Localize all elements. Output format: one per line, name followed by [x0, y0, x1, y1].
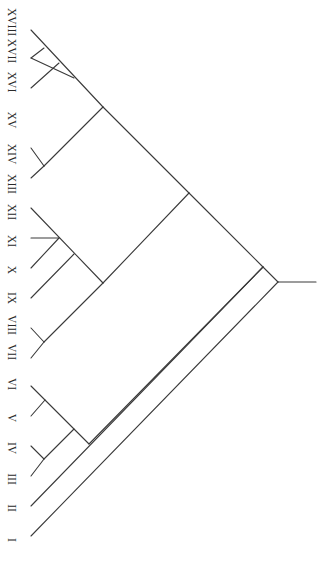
leaf-label-iii: III: [6, 473, 18, 485]
leaf-label-ii: II: [6, 504, 18, 512]
leaf-label-xviii: XVIII: [6, 8, 18, 36]
leaf-label-xvii: XVII: [6, 39, 18, 63]
leaf-label-x: X: [6, 266, 18, 275]
leaf-label-vii: VII: [6, 344, 18, 360]
branch-line: [31, 400, 45, 416]
branch-line: [44, 429, 74, 459]
branch-line: [31, 328, 44, 342]
dendrogram-edges: [31, 30, 316, 536]
branch-line: [31, 58, 74, 78]
branch-line: [103, 193, 189, 283]
leaf-label-viii: VIII: [6, 315, 18, 335]
leaf-label-v: V: [6, 414, 18, 423]
branch-line: [31, 63, 59, 88]
branch-line: [44, 107, 103, 166]
leaf-label-xii: XII: [6, 204, 18, 220]
branch-line: [44, 283, 103, 342]
branch-line: [31, 282, 278, 536]
branch-line: [31, 446, 44, 459]
leaf-label-xvi: XVI: [6, 72, 18, 93]
branch-line: [31, 166, 44, 178]
branch-line: [31, 48, 44, 58]
leaf-label-iv: IV: [6, 442, 18, 455]
branch-line: [189, 193, 263, 267]
branch-line: [31, 148, 44, 166]
leaf-labels: XVIIIXVIIXVIXVXIVXIIIXIIXIXIXVIIIVIIVIVI…: [6, 8, 18, 542]
leaf-label-i: I: [6, 538, 18, 542]
branch-line: [31, 459, 44, 476]
leaf-label-vi: VI: [6, 378, 18, 390]
branch-line: [31, 386, 89, 444]
branch-line: [31, 208, 103, 283]
leaf-label-ix: IX: [6, 292, 18, 305]
leaf-label-xiv: XIV: [6, 144, 18, 165]
leaf-label-xv: XV: [6, 112, 18, 129]
branch-line: [89, 267, 263, 444]
branch-line: [31, 238, 59, 268]
dendrogram: XVIIIXVIIXVIXVXIVXIIIXIIXIXIXVIIIVIIVIVI…: [0, 0, 332, 562]
branch-line: [31, 342, 44, 358]
branch-line: [31, 30, 103, 107]
branch-line: [263, 267, 278, 282]
leaf-label-xiii: XIII: [6, 174, 18, 194]
branch-line: [103, 107, 189, 193]
leaf-label-xi: XI: [6, 235, 18, 247]
